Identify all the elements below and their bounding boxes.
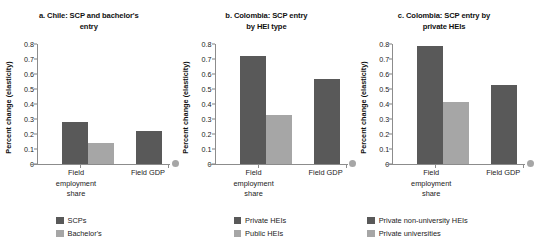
y-tick-label: 0.5	[369, 85, 389, 94]
legend-item-1: SCPs	[56, 214, 178, 227]
y-tick-label: 0.3	[192, 115, 212, 124]
legend-swatch-1	[367, 217, 375, 225]
y-tick-label: 0.1	[192, 145, 212, 154]
y-tick-label: 0.6	[14, 70, 34, 79]
legend: Private HEIsPublic HEIs	[178, 214, 356, 240]
bar-a-s1-c1	[62, 122, 88, 164]
bars-area	[38, 44, 188, 164]
x-axis-separator-tick	[435, 164, 436, 168]
panel-title-line1: b. Colombia: SCP entry	[186, 10, 348, 21]
y-axis-ticks: 0.80.70.60.50.40.30.20.10	[14, 44, 36, 170]
x-axis-category-labels: FieldemploymentshareField GDP	[30, 168, 176, 208]
y-tick-label: 0.1	[369, 145, 389, 154]
y-tick-label: 0.2	[192, 130, 212, 139]
chart-panel-c: c. Colombia: SCP entry byprivate HEIsPer…	[355, 0, 533, 242]
bar-a-s2-c1	[88, 143, 114, 164]
y-tick-label: 0.2	[369, 130, 389, 139]
y-tick-label: 0.2	[14, 130, 34, 139]
bar-b-s1-c2	[314, 79, 340, 165]
legend-item-2: Private universities	[367, 227, 533, 240]
x-category-label-2: Field GDP	[290, 168, 362, 179]
y-axis-label-text: Percent change (elasticity)	[359, 61, 368, 153]
legend-item-1: Private non-university HEIs	[367, 214, 533, 227]
bar-b-s1-c1	[240, 56, 266, 164]
x-category-label-2: Field GDP	[112, 168, 184, 179]
legend-label-1: SCPs	[68, 216, 87, 225]
legend-label-1: Private non-university HEIs	[379, 216, 468, 225]
y-tick-label: 0.4	[369, 100, 389, 109]
y-tick-label: 0.4	[192, 100, 212, 109]
chart-panel-a: a. Chile: SCP and bachelor'sentryPercent…	[0, 0, 178, 242]
panel-title-line1: a. Chile: SCP and bachelor's	[8, 10, 170, 21]
y-tick-label: 0.7	[369, 55, 389, 64]
y-tick-label: 0.8	[14, 40, 34, 49]
x-category-label-1-line1: Field	[395, 168, 467, 179]
x-category-label-1: Fieldemploymentshare	[40, 168, 112, 200]
legend-item-2: Bachelor's	[56, 227, 178, 240]
x-category-label-2-line1: Field GDP	[290, 168, 362, 179]
panel-title: a. Chile: SCP and bachelor'sentry	[8, 10, 170, 32]
bars-area	[393, 44, 538, 164]
y-axis-ticks: 0.80.70.60.50.40.30.20.10	[369, 44, 391, 170]
x-category-label-1-line3: share	[40, 189, 112, 200]
x-axis-category-labels: FieldemploymentshareField GDP	[208, 168, 354, 208]
y-tick-label: 0.7	[192, 55, 212, 64]
y-tick-label: 0.8	[192, 40, 212, 49]
bar-c-s1-c1	[417, 46, 443, 165]
y-tick-label: 0.7	[14, 55, 34, 64]
y-tick-label: 0.4	[14, 100, 34, 109]
y-axis-label-text: Percent change (elasticity)	[181, 61, 190, 153]
x-axis-end-tick	[168, 164, 169, 168]
y-tick-label: 0.3	[14, 115, 34, 124]
y-axis-label: Percent change (elasticity)	[356, 44, 370, 170]
legend-label-1: Private HEIs	[245, 216, 286, 225]
x-category-label-2-line1: Field GDP	[112, 168, 184, 179]
legend-item-2: Public HEIs	[234, 227, 356, 240]
y-tick-label: 0.8	[369, 40, 389, 49]
legend-swatch-2	[234, 230, 242, 238]
bar-c-s2-c1	[443, 102, 469, 164]
x-category-label-1-line2: employment	[395, 179, 467, 190]
legend-label-2: Private universities	[379, 229, 441, 238]
x-axis-separator-tick	[80, 164, 81, 168]
panel-title: b. Colombia: SCP entryby HEI type	[186, 10, 348, 32]
x-axis-category-labels: FieldemploymentshareField GDP	[385, 168, 531, 208]
legend-label-2: Public HEIs	[245, 229, 283, 238]
panel-title: c. Colombia: SCP entry byprivate HEIs	[363, 10, 525, 32]
legend: SCPsBachelor's	[0, 214, 178, 240]
legend-swatch-1	[56, 217, 64, 225]
legend-label-2: Bachelor's	[68, 229, 102, 238]
x-category-label-1: Fieldemploymentshare	[395, 168, 467, 200]
y-tick-label: 0.6	[369, 70, 389, 79]
y-tick-label: 0.3	[369, 115, 389, 124]
y-tick-label: 0.5	[14, 85, 34, 94]
x-category-label-2-line1: Field GDP	[467, 168, 538, 179]
panel-title-line2: by HEI type	[186, 21, 348, 32]
zero-marker-c-s2-c2	[527, 160, 534, 167]
panel-title-line2: entry	[8, 21, 170, 32]
panel-title-line1: c. Colombia: SCP entry by	[363, 10, 525, 21]
x-category-label-1: Fieldemploymentshare	[218, 168, 290, 200]
x-axis-end-tick	[346, 164, 347, 168]
bar-a-s1-c2	[136, 131, 162, 164]
x-category-label-1-line1: Field	[40, 168, 112, 179]
legend: Private non-university HEIsPrivate unive…	[355, 214, 533, 240]
x-category-label-1-line2: employment	[218, 179, 290, 190]
legend-swatch-1	[234, 217, 242, 225]
legend-swatch-2	[367, 230, 375, 238]
bar-c-s1-c2	[491, 85, 517, 165]
y-axis-label-text: Percent change (elasticity)	[4, 61, 13, 153]
x-category-label-1-line2: employment	[40, 179, 112, 190]
bars-area	[216, 44, 366, 164]
x-category-label-2: Field GDP	[467, 168, 538, 179]
x-category-label-1-line1: Field	[218, 168, 290, 179]
x-category-label-1-line3: share	[395, 189, 467, 200]
x-category-label-1-line3: share	[218, 189, 290, 200]
bar-b-s2-c1	[266, 115, 292, 165]
y-tick-label: 0.5	[192, 85, 212, 94]
x-axis-end-tick	[523, 164, 524, 168]
y-axis-label: Percent change (elasticity)	[179, 44, 193, 170]
y-axis-label: Percent change (elasticity)	[1, 44, 15, 170]
legend-item-1: Private HEIs	[234, 214, 356, 227]
y-axis-ticks: 0.80.70.60.50.40.30.20.10	[192, 44, 214, 170]
